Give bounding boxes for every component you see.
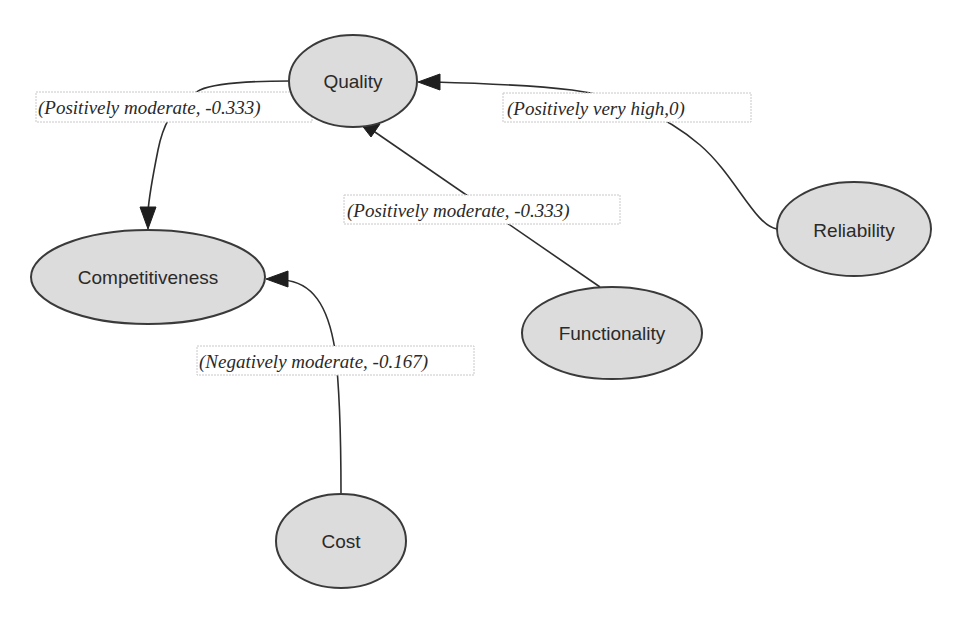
svg-text:Cost: Cost (321, 531, 361, 552)
svg-text:(Positively moderate, -0.333): (Positively moderate, -0.333) (347, 200, 570, 222)
svg-text:Reliability: Reliability (813, 220, 895, 241)
causal-diagram: (Positively very high,0) (Positively mod… (0, 0, 955, 625)
svg-text:Quality: Quality (323, 71, 383, 92)
edge-label-cost-competitiveness: (Negatively moderate, -0.167) (197, 346, 474, 375)
node-functionality: Functionality (522, 287, 702, 379)
edge-label-quality-competitiveness: (Positively moderate, -0.333) (36, 92, 312, 122)
svg-text:Competitiveness: Competitiveness (78, 267, 218, 288)
svg-text:(Negatively moderate, -0.167): (Negatively moderate, -0.167) (199, 351, 428, 373)
svg-text:(Positively moderate, -0.333): (Positively moderate, -0.333) (38, 97, 261, 119)
arrow-head-icon (418, 74, 440, 90)
edge-line (283, 280, 341, 494)
node-quality: Quality (289, 35, 417, 127)
edge-label-reliability-quality: (Positively very high,0) (503, 93, 751, 122)
edge-cost-to-competitiveness (266, 271, 341, 494)
svg-text:Functionality: Functionality (559, 323, 666, 344)
arrow-head-icon (140, 207, 156, 229)
edge-label-functionality-quality: (Positively moderate, -0.333) (344, 195, 620, 224)
node-cost: Cost (276, 494, 406, 588)
svg-text:(Positively very high,0): (Positively very high,0) (507, 98, 685, 120)
node-reliability: Reliability (777, 182, 931, 276)
node-competitiveness: Competitiveness (31, 230, 265, 324)
arrow-head-icon (266, 271, 288, 287)
